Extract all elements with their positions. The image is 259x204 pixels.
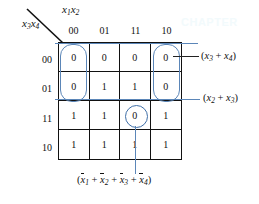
kmap-cell-r2c2[interactable]: 0 (120, 101, 151, 130)
column-axis-sub2: 2 (76, 8, 80, 17)
leader-line-x3-x4 (186, 43, 198, 44)
row-axis-label: x3x4 (22, 17, 39, 31)
column-header-01: 01 (89, 25, 120, 36)
row-header-00: 00 (30, 54, 52, 65)
column-header-10: 10 (151, 25, 182, 36)
kmap-cell-r0c3[interactable]: 0 (151, 43, 182, 72)
kmap-grid: 0 0 0 0 0 1 1 0 1 1 0 1 1 1 1 1 (58, 42, 182, 160)
kmap-cell-r0c0[interactable]: 0 (59, 43, 90, 72)
annot3-var1-bar: x (81, 174, 86, 185)
annot3-var4: x (139, 174, 144, 185)
annot3-var4-bar: x (139, 174, 144, 185)
annot3-var1: x (81, 174, 86, 185)
watermark-text: CHAPTER (181, 16, 238, 28)
column-header-00: 00 (58, 25, 89, 36)
kmap-cell-r1c1[interactable]: 1 (90, 72, 121, 101)
row-header-11: 11 (30, 113, 52, 124)
annot3-var2: x (100, 174, 105, 185)
annotation-term-x2-x3: (x2 + x3) (203, 92, 238, 105)
column-header-11: 11 (120, 25, 151, 36)
kmap-cell-r2c0[interactable]: 1 (59, 101, 90, 130)
kmap-cell-r1c3[interactable]: 0 (151, 72, 182, 101)
annot2-plus: + (215, 92, 226, 103)
annot3-plus3: + (128, 174, 139, 185)
annot3-var2-bar: x (100, 174, 105, 185)
annot3-var3-bar: x (120, 174, 125, 185)
kmap-cell-r2c3[interactable]: 1 (151, 101, 182, 130)
kmap-cell-r3c2[interactable]: 1 (120, 130, 151, 159)
kmap-cell-r3c0[interactable]: 1 (59, 130, 90, 159)
annot3-plus2: + (109, 174, 120, 185)
column-axis-label: x1x2 (62, 3, 79, 17)
annotation-term-x3-x4: (x3 + x4) (201, 50, 236, 63)
annot2-close-paren: ) (235, 92, 239, 103)
kmap-cell-r3c3[interactable]: 1 (151, 130, 182, 159)
row-header-10: 10 (30, 142, 52, 153)
karnaugh-map-figure: CHAPTER x1x2 x3x4 00 01 11 10 00 01 11 1… (0, 0, 259, 204)
kmap-cell-r0c2[interactable]: 0 (120, 43, 151, 72)
kmap-cell-r3c1[interactable]: 1 (90, 130, 121, 159)
row-header-01: 01 (30, 83, 52, 94)
annot3-plus1: + (89, 174, 100, 185)
kmap-cell-r2c1[interactable]: 1 (90, 101, 121, 130)
row-axis-sub2: 4 (36, 22, 40, 31)
kmap-cell-r0c1[interactable]: 0 (90, 43, 121, 72)
kmap-cell-r1c0[interactable]: 0 (59, 72, 90, 101)
annot1-close-paren: ) (233, 50, 237, 61)
annot1-plus: + (213, 50, 224, 61)
annotation-term-complement-sum: (x1 + x2 + x3 + x4) (77, 174, 151, 187)
annot3-var3: x (120, 174, 125, 185)
annot3-close-paren: ) (148, 174, 152, 185)
kmap-cell-r1c2[interactable]: 1 (120, 72, 151, 101)
leader-line-x2-x3 (186, 99, 200, 100)
